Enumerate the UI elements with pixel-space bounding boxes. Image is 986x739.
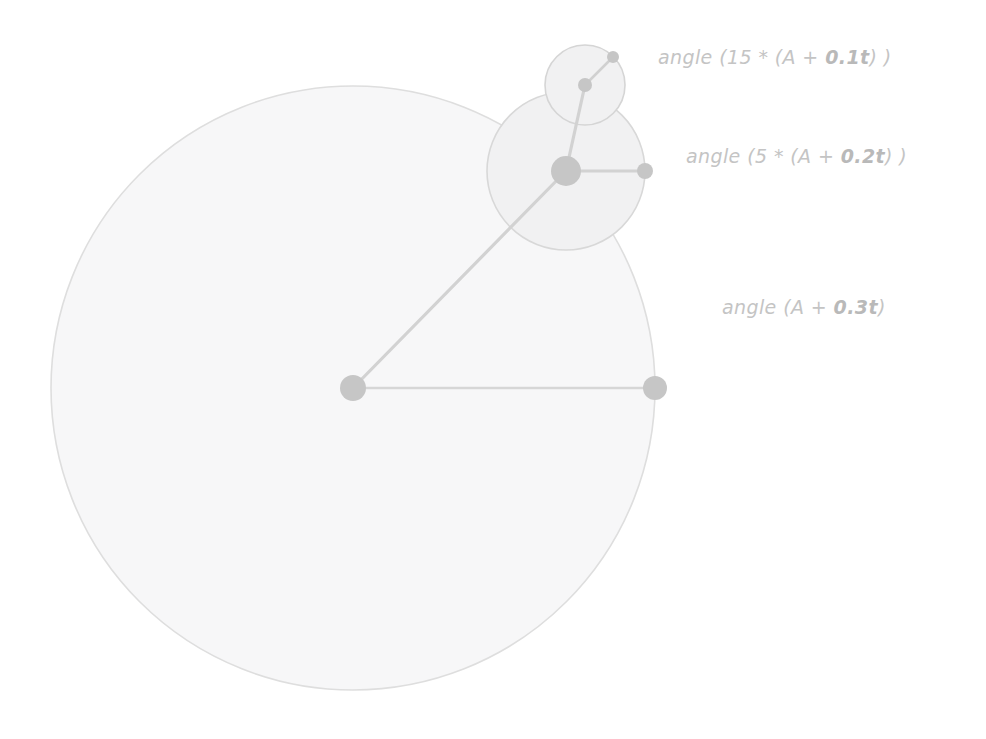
middle-circle-rim-node	[637, 163, 653, 179]
diagram-canvas: angle (15 * (A + 0.1t) ) angle (5 * (A +…	[0, 0, 986, 739]
outer-circle-rim-node	[643, 376, 667, 400]
label-inner-prefix: angle (15 * (A +	[658, 46, 825, 68]
label-middle-angle: angle (5 * (A + 0.2t) )	[686, 145, 907, 168]
label-middle-prefix: angle (5 * (A +	[686, 145, 841, 167]
label-middle-bold: 0.2t	[841, 145, 885, 167]
inner-circle-rim-node	[607, 51, 619, 63]
label-inner-angle: angle (15 * (A + 0.1t) )	[658, 46, 892, 69]
inner-circle-hub-node	[578, 78, 592, 92]
label-outer-suffix: )	[878, 296, 886, 318]
middle-circle-hub-node	[551, 156, 581, 186]
label-outer-angle: angle (A + 0.3t)	[722, 296, 886, 319]
epicycle-diagram	[0, 0, 986, 739]
label-middle-suffix: ) )	[885, 145, 907, 167]
label-inner-bold: 0.1t	[825, 46, 869, 68]
label-outer-bold: 0.3t	[834, 296, 878, 318]
label-inner-suffix: ) )	[869, 46, 891, 68]
outer-circle-hub-node	[340, 375, 366, 401]
label-outer-prefix: angle (A +	[722, 296, 834, 318]
